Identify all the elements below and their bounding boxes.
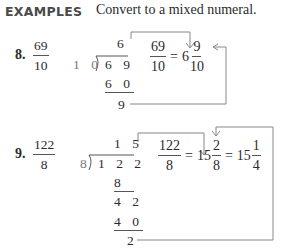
division-remainder: 2 [127, 233, 134, 249]
division-remainder: 9 [118, 97, 125, 113]
division-step: 6 0 [105, 76, 134, 93]
mixed-numerator: 9 [192, 40, 201, 57]
result-denominator: 8 [166, 156, 173, 173]
equals-sign: = [225, 148, 233, 164]
mixed-whole: 15 [197, 148, 211, 164]
simplified-whole: 15 [237, 148, 251, 164]
numerator: 69 [33, 39, 49, 56]
result-equation: 122 8 = 15 2 8 = 15 1 4 [158, 139, 261, 173]
division-step: 4 0 [114, 214, 143, 231]
denominator: 8 [41, 155, 48, 172]
equals-sign: = [170, 49, 178, 65]
mixed-denominator: 10 [190, 57, 204, 74]
division-dividend: 1 2 2 [98, 156, 145, 172]
division-divisor: 1 0 [73, 57, 102, 73]
division-quotient: 1 5 [114, 136, 143, 152]
division-step: 4 2 [114, 194, 143, 210]
mixed-whole: 6 [182, 49, 189, 65]
division-divisor: 8 [80, 156, 87, 172]
mixed-numerator: 2 [212, 139, 221, 156]
example-number: 9. [15, 146, 26, 162]
division-quotient: 6 [117, 36, 124, 52]
division-step: 8 [114, 175, 134, 192]
mixed-denominator: 8 [213, 156, 220, 173]
numerator: 122 [33, 138, 55, 155]
simplified-numerator: 1 [252, 139, 261, 156]
simplified-denominator: 4 [253, 156, 260, 173]
equals-sign: = [185, 148, 193, 164]
division-dividend: 6 9 [105, 57, 134, 73]
problem-fraction: 122 8 [33, 137, 55, 171]
denominator: 10 [34, 56, 48, 73]
division-bracket-9 [89, 155, 91, 170]
example-number: 8. [15, 47, 26, 63]
result-denominator: 10 [151, 57, 165, 74]
result-numerator: 122 [158, 139, 181, 156]
problem-fraction: 69 10 [33, 38, 49, 72]
result-numerator: 69 [150, 40, 166, 57]
result-equation: 69 10 = 6 9 10 [150, 40, 204, 74]
